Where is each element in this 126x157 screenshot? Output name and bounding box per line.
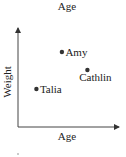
x-axis-label: Age: [58, 130, 76, 142]
footer-dot: [17, 153, 19, 155]
points-layer: AmyCathlinTalia: [34, 46, 112, 95]
point-label-cathlin: Cathlin: [79, 71, 112, 83]
point-label-talia: Talia: [40, 83, 62, 95]
point-label-amy: Amy: [65, 46, 88, 58]
scatter-chart: Age Weight Age AmyCathlinTalia: [0, 0, 126, 157]
chart-title: Age: [58, 0, 76, 12]
y-axis-label: Weight: [1, 66, 13, 98]
point-talia: [34, 87, 38, 91]
point-amy: [60, 50, 64, 54]
